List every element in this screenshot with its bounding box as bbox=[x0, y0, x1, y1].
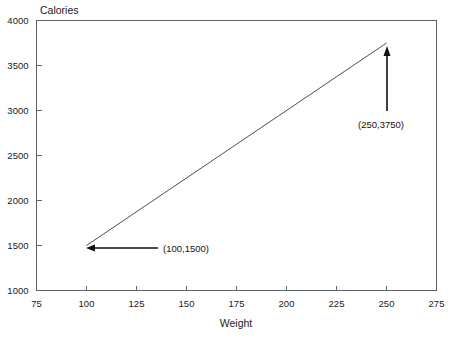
y-tick-label: 1500 bbox=[7, 240, 28, 251]
x-tick-label: 225 bbox=[329, 298, 345, 309]
x-tick-label: 125 bbox=[129, 298, 145, 309]
y-axis-title: Calories bbox=[40, 4, 79, 16]
x-tick-label: 150 bbox=[179, 298, 195, 309]
start-annotation-label: (100,1500) bbox=[163, 243, 209, 254]
y-tick-label: 1000 bbox=[7, 285, 28, 296]
x-tick-label: 275 bbox=[429, 298, 445, 309]
x-axis-title: Weight bbox=[220, 317, 253, 329]
calories-vs-weight-line-chart: Calories 1000150020002500300035004000 75… bbox=[0, 0, 450, 337]
x-tick-label: 250 bbox=[379, 298, 395, 309]
x-tick-label: 175 bbox=[229, 298, 245, 309]
chart-container: Calories 1000150020002500300035004000 75… bbox=[0, 0, 450, 337]
x-tick-label: 100 bbox=[79, 298, 95, 309]
y-tick-label: 4000 bbox=[7, 15, 28, 26]
x-tick-label: 200 bbox=[279, 298, 295, 309]
end-annotation-label: (250,3750) bbox=[358, 119, 404, 130]
y-tick-label: 3000 bbox=[7, 105, 28, 116]
y-tick-label: 2000 bbox=[7, 195, 28, 206]
y-tick-label: 2500 bbox=[7, 150, 28, 161]
chart-background bbox=[0, 0, 450, 337]
y-tick-label: 3500 bbox=[7, 60, 28, 71]
x-tick-label: 75 bbox=[31, 298, 42, 309]
